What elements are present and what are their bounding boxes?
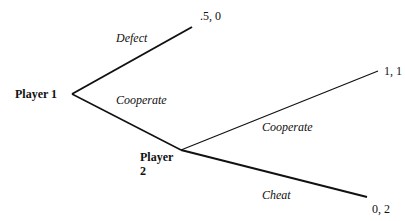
payoff-cooperate-cooperate: 1, 1: [384, 65, 402, 77]
player2-label-line2: 2: [140, 165, 146, 177]
action-p2-cooperate-label: Cooperate: [262, 121, 313, 133]
edge-p2-cooperate: [181, 71, 378, 150]
player2-label-line1: Player: [140, 151, 173, 163]
payoff-cooperate-cheat: 0, 2: [372, 203, 390, 215]
action-p2-cheat-label: Cheat: [262, 189, 291, 201]
action-defect-label: Defect: [116, 32, 147, 44]
game-tree-diagram: Player 1 Player 2 Defect Cooperate Coope…: [0, 0, 405, 221]
player1-label: Player 1: [15, 88, 57, 100]
payoff-defect: .5, 0: [200, 10, 221, 22]
action-p1-cooperate-label: Cooperate: [116, 94, 167, 106]
tree-edges: [0, 0, 405, 221]
